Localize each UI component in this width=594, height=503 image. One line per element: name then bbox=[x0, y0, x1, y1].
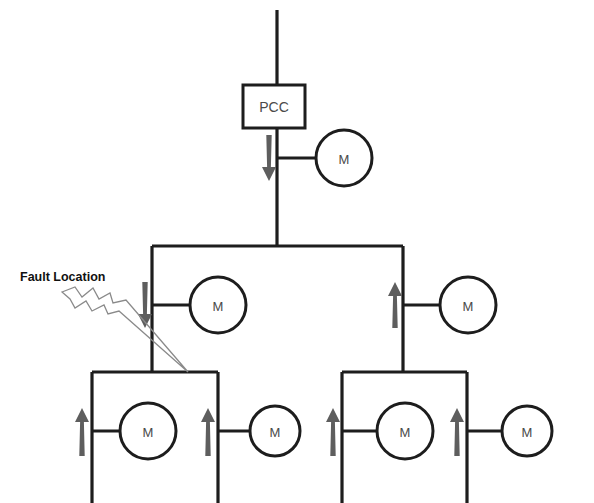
flow-arrow-bl-left-up-icon bbox=[75, 408, 89, 456]
motor-bottom-left-outer-label: M bbox=[270, 425, 281, 440]
pcc-block[interactable]: PCC bbox=[243, 85, 305, 128]
diagram-canvas: PCC M M M M M bbox=[0, 0, 594, 503]
motor-bottom-right-outer[interactable]: M bbox=[502, 406, 552, 456]
motor-mid-left-label: M bbox=[213, 299, 224, 314]
flow-arrow-bl-right-up-icon bbox=[201, 408, 215, 456]
fault-lightning-bolt-icon bbox=[62, 287, 188, 372]
motor-mid-left[interactable]: M bbox=[190, 277, 246, 333]
fault-location-label: Fault Location bbox=[20, 270, 105, 284]
motor-bottom-left-inner-label: M bbox=[143, 425, 154, 440]
motor-bottom-left-inner[interactable]: M bbox=[120, 403, 176, 459]
flow-arrow-mid-right-up-icon bbox=[388, 282, 402, 328]
motor-pcc-label: M bbox=[339, 152, 350, 167]
motor-pcc[interactable]: M bbox=[316, 130, 372, 186]
flow-arrow-br-right-up-icon bbox=[450, 408, 464, 456]
motor-bottom-right-inner[interactable]: M bbox=[377, 403, 433, 459]
pcc-label: PCC bbox=[259, 99, 289, 115]
motor-mid-right-label: M bbox=[463, 299, 474, 314]
single-line-diagram: PCC M M M M M bbox=[0, 0, 594, 503]
flow-arrow-pcc-feed-down-icon bbox=[262, 135, 276, 181]
motor-mid-right[interactable]: M bbox=[440, 277, 496, 333]
motor-group: M M M M M M bbox=[120, 130, 552, 459]
motor-bottom-right-inner-label: M bbox=[400, 425, 411, 440]
fault-annotation: Fault Location bbox=[20, 270, 188, 372]
motor-bottom-right-outer-label: M bbox=[522, 425, 533, 440]
flow-arrow-br-left-up-icon bbox=[326, 408, 340, 456]
motor-bottom-left-outer[interactable]: M bbox=[250, 406, 300, 456]
